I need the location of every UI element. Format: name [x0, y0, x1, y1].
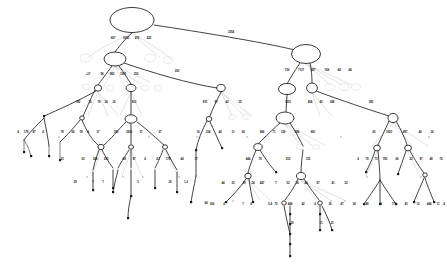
edge-label: 3500: [126, 130, 133, 134]
edge-label: 1251: [285, 100, 292, 104]
edge-label: 97: [419, 157, 423, 161]
edge-label: 43: [319, 100, 323, 104]
edge-label: 783: [383, 157, 388, 161]
tree-node[interactable]: [374, 145, 381, 151]
tree-node[interactable]: [125, 115, 137, 123]
edge-label: 71: [272, 130, 276, 134]
edge-label: 24: [251, 181, 255, 185]
tree-node[interactable]: [110, 8, 154, 33]
edge-label: 773: [392, 202, 397, 206]
tree-diagram-canvas: 66750004764252354+1796982126725020073671…: [0, 0, 447, 264]
tree-node[interactable]: [254, 144, 262, 151]
edge-label: 67: [158, 130, 162, 134]
edge-label: 16: [196, 130, 200, 134]
edge-label: 39: [242, 181, 246, 185]
edge-label: 946: [260, 130, 265, 134]
edge-label: 37: [139, 130, 143, 134]
tree-node[interactable]: [98, 144, 104, 149]
tree-node[interactable]: [282, 201, 287, 205]
edge-label: 476: [135, 36, 140, 40]
tree-node[interactable]: [94, 85, 101, 91]
edge-label: 4.8: [122, 157, 126, 161]
edge-label: 22: [344, 181, 348, 185]
edge-label: 286: [295, 130, 300, 134]
edge-label: 923: [132, 100, 137, 104]
tree-diagram-svg: 66750004764252354+1796982126725020073671…: [0, 0, 447, 264]
edge-label: 566: [325, 68, 330, 72]
edge-label: 447: [260, 181, 265, 185]
edge-label: 200: [175, 69, 180, 73]
edge-label: 11: [320, 221, 323, 225]
edge-label: 29: [73, 180, 77, 184]
edge-label: 44: [221, 181, 225, 185]
edge-label: 37: [96, 130, 100, 134]
edge-label: 334: [206, 130, 211, 134]
edge-label: 44: [204, 201, 208, 205]
edge-label: 34: [352, 202, 356, 206]
diagram-background: [0, 0, 447, 264]
edge-label: 687: [403, 130, 408, 134]
edge-label: 44: [348, 68, 352, 72]
edge-label: 20: [168, 180, 172, 184]
edge-label: 179: [166, 157, 171, 161]
edge-label: 23: [231, 181, 235, 185]
tree-node[interactable]: [276, 112, 294, 124]
edge-label: 72: [274, 202, 278, 206]
tree-node[interactable]: [80, 116, 85, 120]
edge-label: 782: [76, 100, 81, 104]
tree-node[interactable]: [292, 45, 321, 64]
edge-label: 44: [337, 68, 341, 72]
tree-node[interactable]: [129, 145, 134, 149]
tree-node[interactable]: [245, 173, 251, 179]
edge-label: 87: [32, 130, 36, 134]
edge-label: 97: [214, 100, 218, 104]
edge-label: 348: [330, 100, 335, 104]
edge-label: 44: [418, 130, 422, 134]
edge-label: 931: [203, 100, 208, 104]
edge-label: 97: [132, 157, 136, 161]
tree-node[interactable]: [206, 117, 212, 122]
edge-label: 1-2: [184, 180, 188, 184]
edge-label: 43: [404, 202, 408, 206]
edge-label: 897: [311, 68, 316, 72]
edge-label: 44: [304, 181, 308, 185]
edge-label: 14: [295, 181, 299, 185]
edge-label: 290: [104, 157, 109, 161]
edge-label: 736: [285, 68, 290, 72]
edge-label: 44: [218, 130, 222, 134]
edge-label: +17: [86, 72, 91, 76]
edge-label: 444: [288, 202, 293, 206]
tree-node[interactable]: [296, 172, 305, 179]
edge-label: 348: [93, 157, 98, 161]
edge-label: 1267: [120, 72, 127, 76]
tree-node[interactable]: [307, 83, 318, 93]
tree-node[interactable]: [104, 52, 126, 66]
edge-label: 78: [60, 130, 64, 134]
edge-label: 79: [258, 157, 262, 161]
tree-node[interactable]: [126, 84, 136, 91]
tree-node[interactable]: [405, 145, 412, 151]
edge-label: 667: [111, 36, 116, 40]
edge-label: 76: [88, 100, 92, 104]
edge-label: 179: [24, 130, 29, 134]
edge-label: 7137: [298, 68, 305, 72]
tree-node[interactable]: [217, 84, 225, 91]
tree-node[interactable]: [163, 145, 168, 149]
edge-label: 66: [71, 130, 75, 134]
edge-label: 78: [365, 157, 369, 161]
tree-node[interactable]: [388, 113, 398, 122]
edge-label: 250: [134, 72, 139, 76]
edge-label: 982: [110, 72, 115, 76]
tree-node[interactable]: [423, 173, 428, 177]
edge-label: 253: [286, 157, 291, 161]
edge-label: 73: [374, 157, 378, 161]
tree-node[interactable]: [318, 201, 323, 205]
edge-label: 76: [439, 157, 443, 161]
edge-label: 408: [308, 100, 313, 104]
edge-label: 30: [290, 221, 294, 225]
edge-label: 36: [430, 130, 434, 134]
tree-node[interactable]: [279, 83, 296, 94]
edge-label: 48: [429, 157, 433, 161]
edge-label: 34: [104, 100, 108, 104]
edge-label: 42: [225, 100, 229, 104]
